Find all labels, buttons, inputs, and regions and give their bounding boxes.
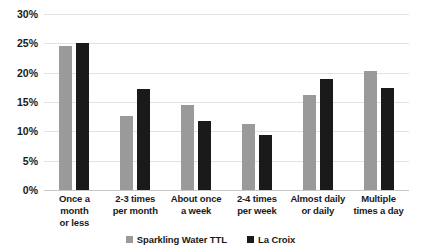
x-axis-category-label: 2-3 times per month bbox=[105, 193, 166, 229]
bar-group bbox=[166, 14, 227, 190]
y-axis-tick-label: 25% bbox=[0, 37, 38, 49]
bar-group bbox=[44, 14, 105, 190]
y-axis-tick-label: 0% bbox=[0, 184, 38, 196]
bar-1 bbox=[76, 43, 89, 190]
axis-baseline bbox=[44, 190, 409, 191]
bar-group bbox=[226, 14, 287, 190]
bar-0 bbox=[364, 71, 377, 190]
y-axis-tick-label: 30% bbox=[0, 8, 38, 20]
bar-1 bbox=[198, 121, 211, 190]
bar-group bbox=[287, 14, 348, 190]
bar-chart: 0%5%10%15%20%25%30% Once a month or less… bbox=[0, 0, 421, 252]
bar-0 bbox=[59, 46, 72, 190]
chart-legend: Sparkling Water TTLLa Croix bbox=[0, 234, 421, 245]
x-axis-category-label: Almost daily or daily bbox=[287, 193, 348, 229]
bar-group bbox=[348, 14, 409, 190]
bar-1 bbox=[320, 79, 333, 190]
bar-0 bbox=[242, 124, 255, 190]
x-axis-category-label: About once a week bbox=[166, 193, 227, 229]
bar-groups bbox=[44, 14, 409, 190]
bar-group bbox=[105, 14, 166, 190]
legend-label: La Croix bbox=[258, 234, 295, 245]
legend-swatch-icon bbox=[126, 236, 133, 243]
y-axis-tick-label: 20% bbox=[0, 67, 38, 79]
y-axis-tick-label: 5% bbox=[0, 155, 38, 167]
x-axis-category-label: 2-4 times per week bbox=[226, 193, 287, 229]
x-axis-category-label: Once a month or less bbox=[44, 193, 105, 229]
y-axis-tick-label: 10% bbox=[0, 125, 38, 137]
legend-label: Sparkling Water TTL bbox=[137, 234, 227, 245]
bar-1 bbox=[137, 89, 150, 190]
x-axis-labels: Once a month or less2-3 times per monthA… bbox=[44, 193, 409, 229]
legend-item[interactable]: Sparkling Water TTL bbox=[126, 234, 227, 245]
y-axis-tick-label: 15% bbox=[0, 96, 38, 108]
bar-0 bbox=[120, 116, 133, 191]
legend-swatch-icon bbox=[247, 236, 254, 243]
x-axis-category-label: Multiple times a day bbox=[348, 193, 409, 229]
bar-0 bbox=[303, 95, 316, 190]
bar-0 bbox=[181, 105, 194, 190]
bar-1 bbox=[259, 135, 272, 190]
legend-item[interactable]: La Croix bbox=[247, 234, 295, 245]
bar-1 bbox=[381, 88, 394, 190]
